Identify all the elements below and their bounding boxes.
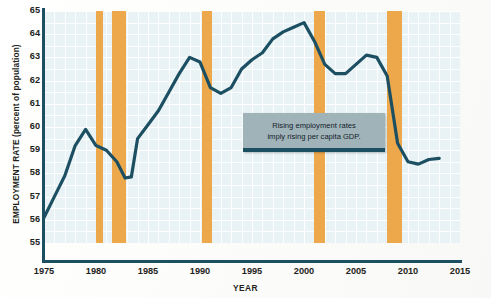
callout-line-2: imply rising per capita GDP.	[267, 132, 360, 141]
x-axis-title: YEAR	[0, 283, 491, 293]
x-axis-line	[42, 260, 462, 263]
y-tick-label: 57	[4, 191, 40, 201]
x-tick-label: 2000	[284, 266, 324, 276]
callout-text: Rising employment rates imply rising per…	[267, 120, 360, 142]
y-tick-label: 59	[4, 144, 40, 154]
callout-box: Rising employment rates imply rising per…	[243, 113, 385, 152]
chart-figure: EMPLOYMENT RATE (percent of population) …	[0, 0, 491, 298]
y-tick-label: 64	[4, 28, 40, 38]
x-tick-label: 2005	[336, 266, 376, 276]
y-tick-label: 56	[4, 214, 40, 224]
y-tick-label: 60	[4, 121, 40, 131]
y-tick-label: 62	[4, 75, 40, 85]
callout-line-1: Rising employment rates	[272, 121, 356, 130]
y-tick-label: 61	[4, 98, 40, 108]
x-tick-label: 1990	[180, 266, 220, 276]
y-tick-label: 65	[4, 5, 40, 15]
y-tick-label: 63	[4, 51, 40, 61]
y-tick-label: 55	[4, 237, 40, 247]
x-tick-label: 1985	[128, 266, 168, 276]
x-tick-label: 1995	[232, 266, 272, 276]
y-axis-line	[42, 8, 45, 263]
x-tick-label: 2010	[388, 266, 428, 276]
x-tick-label: 1980	[76, 266, 116, 276]
x-tick-label: 1975	[24, 266, 64, 276]
x-tick-label: 2015	[440, 266, 480, 276]
y-axis-tick-labels: 6564636261605958575655	[0, 0, 40, 298]
y-tick-label: 58	[4, 167, 40, 177]
